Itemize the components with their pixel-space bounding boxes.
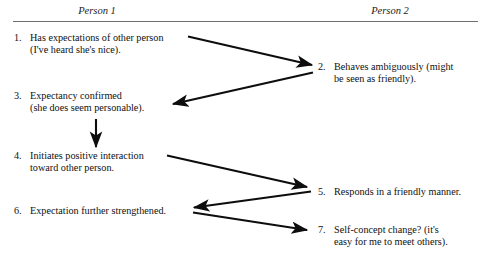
step-text-7: Self-concept change? (it's easy for me t… xyxy=(334,224,448,249)
step-item-3: 3. Expectancy confirmed (she does seem p… xyxy=(14,90,144,115)
step-number-7: 7. xyxy=(318,224,333,236)
step-line: Self-concept change? (it's xyxy=(334,224,448,236)
column-header-person-2: Person 2 xyxy=(355,5,425,17)
step-line: Expectation further strengthened. xyxy=(30,205,166,217)
column-header-person-1: Person 1 xyxy=(62,5,132,17)
step-text-5: Responds in a friendly manner. xyxy=(334,186,461,198)
arrow-5-to-6 xyxy=(194,192,311,208)
step-line: Initiates positive interaction xyxy=(30,150,144,162)
step-text-1: Has expectations of other person (I've h… xyxy=(30,32,164,57)
step-text-6: Expectation further strengthened. xyxy=(30,205,166,217)
step-item-2: 2. Behaves ambiguously (might be seen as… xyxy=(318,61,453,86)
diagram-canvas: Person 1 Person 2 1. Has expectations of… xyxy=(0,0,491,262)
step-line: Expectancy confirmed xyxy=(30,90,144,102)
step-number-4: 4. xyxy=(14,150,29,162)
step-item-7: 7. Self-concept change? (it's easy for m… xyxy=(318,224,448,249)
step-line: Has expectations of other person xyxy=(30,32,164,44)
step-number-5: 5. xyxy=(318,186,333,198)
arrow-4-to-5 xyxy=(167,156,307,188)
step-line: (she does seem personable). xyxy=(30,102,144,114)
step-number-3: 3. xyxy=(14,90,29,102)
step-text-4: Initiates positive interaction toward ot… xyxy=(30,150,144,175)
header-divider-line xyxy=(13,21,478,22)
step-line: Responds in a friendly manner. xyxy=(334,186,461,198)
step-line: (I've heard she's nice). xyxy=(30,44,164,56)
step-item-5: 5. Responds in a friendly manner. xyxy=(318,186,461,198)
arrow-6-to-7 xyxy=(193,213,307,231)
step-text-2: Behaves ambiguously (might be seen as fr… xyxy=(334,61,453,86)
step-text-3: Expectancy confirmed (she does seem pers… xyxy=(30,90,144,115)
step-line: easy for me to meet others). xyxy=(334,236,448,248)
arrow-1-to-2 xyxy=(188,37,312,66)
step-line: be seen as friendly). xyxy=(334,73,453,85)
step-number-2: 2. xyxy=(318,61,333,73)
step-item-1: 1. Has expectations of other person (I'v… xyxy=(14,32,164,57)
step-line: Behaves ambiguously (might xyxy=(334,61,453,73)
step-line: toward other person. xyxy=(30,162,144,174)
step-item-6: 6. Expectation further strengthened. xyxy=(14,205,166,217)
step-number-1: 1. xyxy=(14,32,29,44)
step-item-4: 4. Initiates positive interaction toward… xyxy=(14,150,144,175)
arrow-2-to-3 xyxy=(173,73,313,105)
step-number-6: 6. xyxy=(14,205,29,217)
